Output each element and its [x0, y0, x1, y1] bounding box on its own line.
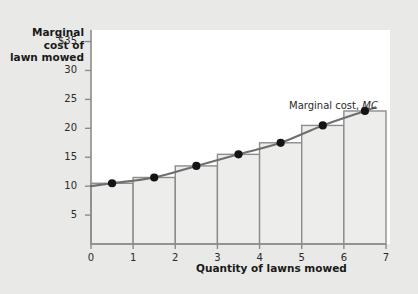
- x-tick-label-0: 0: [79, 252, 103, 263]
- data-point-1: [108, 179, 116, 187]
- x-tick-label-5: 5: [290, 252, 314, 263]
- bar-2: [133, 177, 175, 244]
- x-tick-label-6: 6: [332, 252, 356, 263]
- x-tick-label-7: 7: [374, 252, 398, 263]
- chart-figure: Marginal cost of lawn mowed Quantity of …: [0, 0, 418, 294]
- x-tick-label-2: 2: [163, 252, 187, 263]
- data-point-2: [150, 173, 158, 181]
- y-tick-label-30: 30: [41, 64, 77, 75]
- y-tick-label-5: 5: [41, 209, 77, 220]
- y-axis-title-line-3: lawn mowed: [6, 51, 84, 64]
- y-tick-label-15: 15: [41, 151, 77, 162]
- x-tick-label-3: 3: [205, 252, 229, 263]
- y-tick-label-10: 10: [41, 180, 77, 191]
- y-tick-label-25: 25: [41, 93, 77, 104]
- data-point-4: [234, 150, 242, 158]
- bar-5: [260, 143, 302, 244]
- bar-6: [302, 125, 344, 244]
- bar-1: [91, 183, 133, 244]
- bar-7: [344, 111, 386, 244]
- data-point-6: [319, 121, 327, 129]
- bar-3: [175, 166, 217, 244]
- data-point-3: [192, 162, 200, 170]
- x-tick-label-1: 1: [121, 252, 145, 263]
- curve-label-symbol: MC: [362, 100, 378, 111]
- y-tick-label-20: 20: [41, 122, 77, 133]
- x-tick-label-4: 4: [248, 252, 272, 263]
- bar-4: [217, 154, 259, 244]
- marginal-cost-curve-label: Marginal cost, MC: [289, 100, 378, 111]
- x-axis-title: Quantity of lawns mowed: [196, 262, 396, 274]
- curve-label-text: Marginal cost,: [289, 100, 362, 111]
- data-point-5: [277, 139, 285, 147]
- y-tick-label-35: $35: [41, 35, 77, 46]
